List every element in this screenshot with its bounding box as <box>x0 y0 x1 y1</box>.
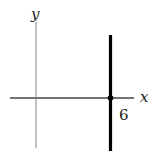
graph-figure: y x 6 <box>0 0 154 157</box>
x-axis-label: x <box>140 88 149 106</box>
y-axis-label: y <box>30 5 40 23</box>
intersection-point <box>108 95 114 101</box>
tick-label-6: 6 <box>119 106 129 124</box>
